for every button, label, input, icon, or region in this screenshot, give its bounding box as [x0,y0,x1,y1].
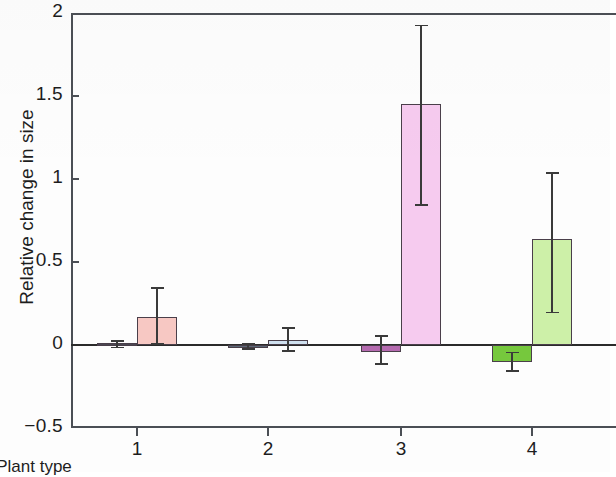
x-axis-label: Plant type [0,457,610,477]
y-axis-tick-label: −0.5 [0,415,63,437]
plot-frame [71,13,616,428]
errorbar-treatment-2-cap-high [282,327,295,329]
errorbar-control-2-cap-low [242,348,255,350]
y-axis-tick-label: 0 [0,332,63,354]
y-axis-label: Relative change in size [16,82,38,332]
errorbar-treatment-4-cap-high [546,172,559,174]
errorbar-treatment-3-cap-low [415,204,428,206]
x-axis-tick-mark [136,428,138,436]
errorbar-treatment-3-line [420,25,422,206]
errorbar-control-3-line [380,335,382,365]
errorbar-control-4-cap-high [506,352,519,354]
errorbar-treatment-1-cap-high [151,287,164,289]
errorbar-treatment-2-line [287,327,289,352]
errorbar-control-1-cap-high [111,340,124,342]
errorbar-treatment-2-cap-low [282,350,295,352]
errorbar-control-1-cap-low [111,347,124,349]
errorbar-control-4-line [511,352,513,372]
errorbar-control-3-cap-high [375,335,388,337]
errorbar-treatment-3-cap-high [415,25,428,27]
errorbar-control-3-cap-low [375,363,388,365]
errorbar-control-4-cap-low [506,370,519,372]
y-axis-tick-label: 2 [0,0,63,22]
errorbar-treatment-4-line [551,172,553,313]
x-axis-tick-mark [531,428,533,436]
errorbar-treatment-4-cap-low [546,312,559,314]
errorbar-treatment-1-cap-low [151,343,164,345]
x-axis-label-text: Plant type [0,457,72,476]
x-axis-tick-mark [400,428,402,436]
errorbar-control-2-cap-high [242,343,255,345]
x-axis-tick-mark [267,428,269,436]
errorbar-treatment-1-line [156,287,158,345]
